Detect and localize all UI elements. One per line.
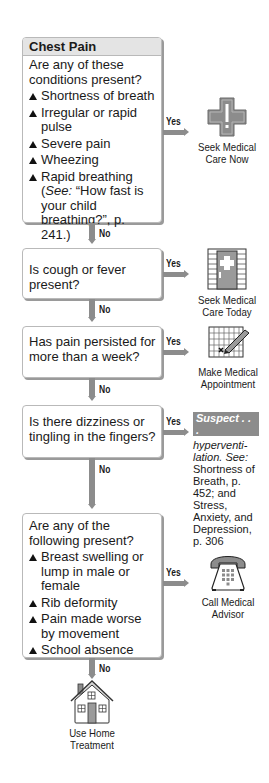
no-arrow-4 [89,458,95,505]
question-2: Is cough or fever present? [29,263,156,292]
no-arrow-3 [89,378,95,397]
outcome-label: Seek Medical [193,141,262,153]
outcome-make-appointment: Make Medical Appointment [188,324,268,390]
telephone-icon [208,550,248,592]
list-item: Rib deformity [29,596,156,611]
question-4: Is there dizziness or tingling in the fi… [29,415,156,444]
pain-persisted-box: Has pain persisted for more than a week? [22,326,162,378]
outcome-call-advisor: Call Medical Advisor [188,550,268,620]
list-item: Wheezing [29,153,156,168]
outcome-seek-care-now: Seek Medical Care Now [188,97,266,165]
dizziness-box: Is there dizziness or tingling in the fi… [22,405,162,458]
condition-list-1: Shortness of breath Irregular or rapid p… [29,89,156,242]
no-label-3: No [99,384,110,395]
outcome-label: Seek Medical [193,294,262,306]
yes-label-3: Yes [166,336,181,347]
chest-pain-box: Chest Pain Are any of these conditions p… [22,37,162,223]
no-label-5: No [99,663,110,674]
yes-arrow-2 [163,272,185,277]
outcome-label: Appointment [193,378,263,390]
calendar-pencil-icon [205,324,251,360]
clinic-door-icon [207,248,247,290]
no-arrow-5 [89,658,95,675]
list-item: Pain made worse by movement [29,612,156,641]
question-5: Are any of the following present? [29,519,156,548]
list-item: Shortness of breath [29,89,156,104]
yes-arrow-4 [163,430,185,435]
outcome-home-treatment: Use Home Treatment [58,678,126,751]
final-label: Use Home [62,727,122,739]
list-item: Breast swelling or lump in male or femal… [29,550,156,594]
question-3: Has pain persisted for more than a week? [29,335,156,364]
no-label-4: No [99,464,110,475]
following-present-box: Are any of the following present? Breast… [22,513,162,658]
list-item: School absence [29,643,156,658]
yes-label-2: Yes [166,258,181,269]
box-title: Chest Pain [23,38,161,56]
yes-arrow-5 [163,581,185,586]
yes-arrow-3 [163,350,185,355]
yes-label-1: Yes [166,116,181,127]
cough-fever-box: Is cough or fever present? [22,248,162,299]
outcome-label: Make Medical [193,366,263,378]
no-arrow-2 [89,299,95,318]
medical-cross-icon [207,97,247,137]
outcome-label: Care Now [193,153,262,165]
list-item: Severe pain [29,137,156,152]
condition-list-5: Breast swelling or lump in male or femal… [29,550,156,658]
outcome-label: Care Today [193,306,262,318]
outcome-label: Call Medical [193,596,263,608]
outcome-label: Advisor [193,608,263,620]
question-1: Are any of these conditions present? [29,58,156,87]
yes-label-4: Yes [166,416,181,427]
yes-label-5: Yes [166,567,181,578]
suspect-text: hyperventi-lation. See: Shortness of Bre… [193,439,259,547]
final-label: Treatment [62,739,122,751]
list-item: Irregular or rapid pulse [29,106,156,135]
suspect-tag: Suspect . . . [193,412,259,436]
house-icon [69,678,115,724]
outcome-seek-care-today: Seek Medical Care Today [188,248,266,318]
no-arrow-1 [89,223,95,240]
yes-arrow-1 [163,130,185,135]
suspect-note: Suspect . . . hyperventi-lation. See: Sh… [193,412,259,547]
no-label-2: No [99,304,110,315]
no-label-1: No [99,228,110,239]
